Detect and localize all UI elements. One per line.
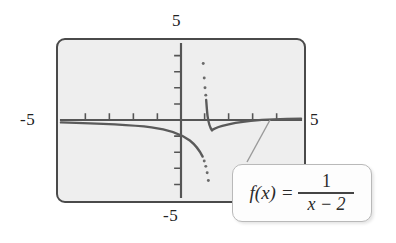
formula-content: f(x) = 1 x − 2 [233, 165, 371, 221]
formula-lhs: f(x) = [250, 182, 294, 205]
axis-label-top: 5 [172, 11, 181, 31]
curve-left-branch-dots [203, 160, 210, 182]
axis-label-right: 5 [310, 110, 319, 130]
axis-label-left: -5 [20, 110, 35, 130]
fraction-denominator: x − 2 [302, 194, 350, 214]
curve-right-branch-upper [206, 100, 212, 130]
formula-fraction: 1 x − 2 [298, 172, 354, 213]
curve-right-branch-dots [202, 62, 208, 97]
axis-label-bottom: -5 [163, 206, 178, 226]
formula-callout: f(x) = 1 x − 2 [232, 164, 372, 222]
fraction-numerator: 1 [317, 172, 336, 192]
graphing-calculator-figure: 5 -5 5 -5 f(x) = 1 x − 2 [0, 0, 396, 243]
